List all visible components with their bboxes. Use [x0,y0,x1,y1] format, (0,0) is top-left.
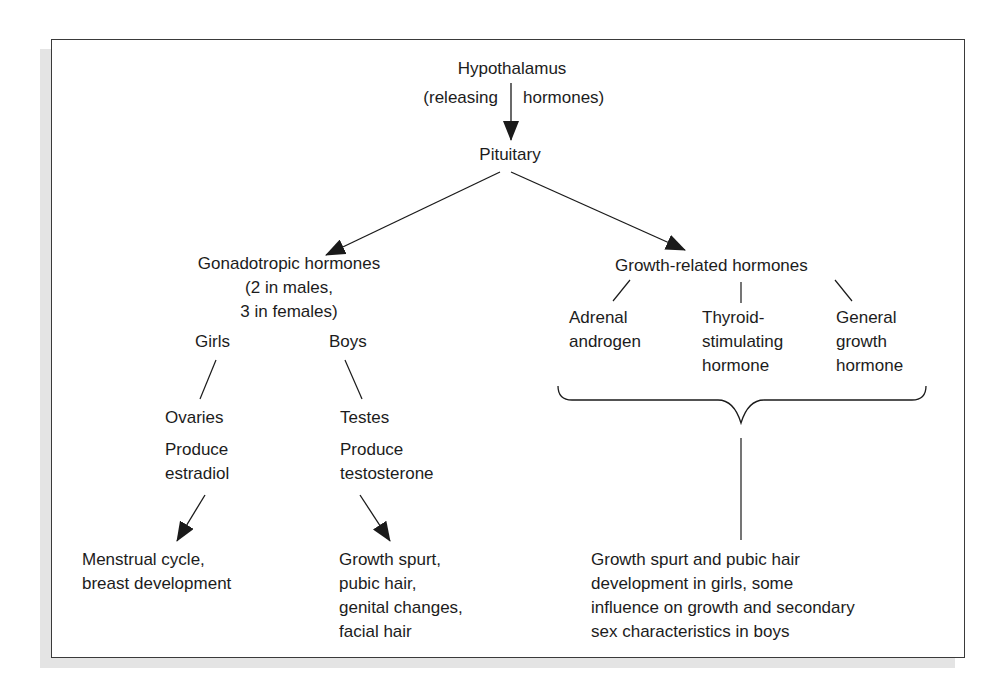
effect-line: breast development [82,572,231,596]
gonadotropic-title: Gonadotropic hormones (2 in males, 3 in … [198,252,380,324]
hypothalamus-label: Hypothalamus [458,57,567,81]
effect-line: facial hair [339,620,463,644]
curly-brace-icon [558,386,926,423]
hormone-line: stimulating [702,330,783,354]
hormone-line: androgen [569,330,641,354]
arrow-estradiol-to-effects-icon [177,495,205,541]
releasing-label-left: (releasing [423,86,498,110]
adrenal-androgen-label: Adrenal androgen [569,306,641,354]
boys-branch-line [345,360,362,399]
hormone-line: Thyroid- [702,306,783,330]
releasing-label-right: hormones) [523,86,604,110]
hormone-line: Adrenal [569,306,641,330]
hormone-line: hormone [702,354,783,378]
effect-line: pubic hair, [339,572,463,596]
growth-related-effects: Growth spurt and pubic hair development … [591,548,855,644]
girls-effects: Menstrual cycle, breast development [82,548,231,596]
produce-line: estradiol [165,462,229,486]
boys-label: Boys [329,330,367,354]
gonadotropic-title-line: (2 in males, [198,276,380,300]
effect-line: influence on growth and secondary [591,596,855,620]
girls-label: Girls [195,330,230,354]
thyroid-stimulating-hormone-label: Thyroid- stimulating hormone [702,306,783,378]
hormone-line: General [836,306,903,330]
effect-line: Growth spurt, [339,548,463,572]
general-growth-branch-line [835,280,852,301]
general-growth-hormone-label: General growth hormone [836,306,903,378]
effect-line: genital changes, [339,596,463,620]
ovaries-label: Ovaries [165,406,224,430]
hormone-line: hormone [836,354,903,378]
produce-line: Produce [165,438,229,462]
pituitary-label: Pituitary [479,143,540,167]
effect-line: sex characteristics in boys [591,620,855,644]
boys-effects: Growth spurt, pubic hair, genital change… [339,548,463,644]
arrow-pituitary-to-gonadotropic-icon [326,172,500,255]
arrow-pituitary-to-growth-related-icon [511,172,685,250]
gonadotropic-title-line: Gonadotropic hormones [198,252,380,276]
girls-branch-line [200,360,216,399]
testes-label: Testes [340,406,389,430]
growth-related-title: Growth-related hormones [615,254,808,278]
gonadotropic-title-line: 3 in females) [198,300,380,324]
effect-line: development in girls, some [591,572,855,596]
adrenal-branch-line [613,280,630,301]
effect-line: Menstrual cycle, [82,548,231,572]
effect-line: Growth spurt and pubic hair [591,548,855,572]
arrow-testosterone-to-effects-icon [360,495,390,541]
produce-line: testosterone [340,462,434,486]
hormone-line: growth [836,330,903,354]
produce-line: Produce [340,438,434,462]
ovaries-produce: Produce estradiol [165,438,229,486]
testes-produce: Produce testosterone [340,438,434,486]
